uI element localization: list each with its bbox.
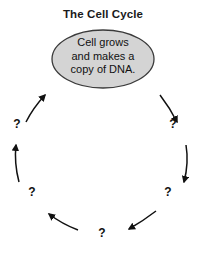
center-node-line-2: and makes a xyxy=(53,50,153,64)
step-upper-right-placeholder: ? xyxy=(166,117,180,131)
center-node-line-3: copy of DNA. xyxy=(53,63,153,77)
arrow-upper-left-to-node xyxy=(26,95,45,122)
arrow-lower-left-to-upper-left xyxy=(15,145,19,182)
step-lower-right-placeholder: ? xyxy=(161,185,175,199)
arrow-lower-right-to-bottom xyxy=(129,211,156,229)
center-node-line-1: Cell grows xyxy=(53,36,153,50)
cell-cycle-diagram: The Cell Cycle Cell grows and makes a co… xyxy=(0,0,206,273)
arrow-bottom-to-lower-left xyxy=(49,214,78,230)
step-lower-left-placeholder: ? xyxy=(25,185,39,199)
center-node-label: Cell grows and makes a copy of DNA. xyxy=(53,36,153,77)
step-upper-left-placeholder: ? xyxy=(10,117,24,131)
arrow-upper-right-to-lower-right xyxy=(184,145,187,182)
step-bottom-placeholder: ? xyxy=(95,226,109,240)
